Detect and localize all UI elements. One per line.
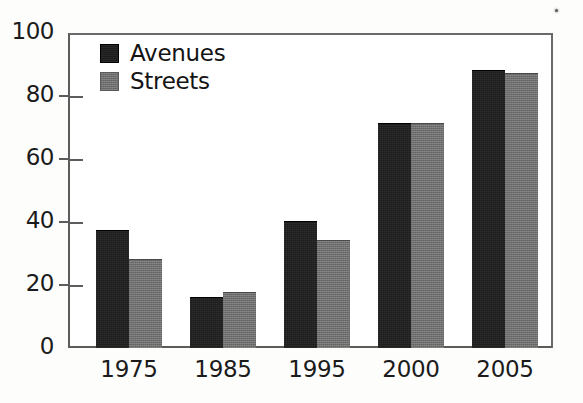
y-tick-mark-20 [59, 284, 68, 286]
x-label-1985: 1985 [188, 356, 258, 382]
bar-streets-2005[interactable] [505, 73, 538, 348]
bar-avenues-1975[interactable] [96, 230, 129, 348]
legend-swatch-streets-icon [100, 72, 119, 91]
x-label-2000: 2000 [376, 356, 446, 382]
bar-avenues-1985[interactable] [190, 297, 223, 348]
y-tick-label-20: 20 [26, 270, 54, 296]
x-label-1995: 1995 [282, 356, 352, 382]
bar-streets-1995[interactable] [317, 240, 350, 348]
x-axis: 1975 1985 1995 2000 2005 [68, 348, 553, 393]
y-tick-mark-40 [59, 221, 68, 223]
y-axis: 100 80 60 40 20 0 [0, 33, 68, 348]
legend-swatch-avenues-icon [100, 44, 119, 63]
legend-item-avenues[interactable]: Avenues [100, 40, 225, 66]
bar-avenues-2005[interactable] [472, 70, 505, 348]
bar-group-1995 [284, 33, 350, 348]
bar-chart-figure: 100 80 60 40 20 0 [0, 0, 583, 403]
bar-avenues-1995[interactable] [284, 221, 317, 348]
bar-streets-1985[interactable] [223, 292, 256, 348]
bar-group-2005 [472, 33, 538, 348]
y-tick-mark-80 [59, 95, 68, 97]
scan-speck-artifact [555, 9, 558, 12]
legend-label-avenues: Avenues [130, 40, 225, 66]
y-tick-mark-60 [59, 158, 68, 160]
y-tick-label-100: 100 [12, 18, 54, 44]
bar-avenues-2000[interactable] [378, 123, 411, 348]
bar-streets-2000[interactable] [411, 123, 444, 348]
bar-group-2000 [378, 33, 444, 348]
legend-label-streets: Streets [130, 68, 210, 94]
legend-item-streets[interactable]: Streets [100, 68, 225, 94]
x-label-1975: 1975 [94, 356, 164, 382]
chart-legend: Avenues Streets [100, 40, 225, 96]
y-tick-label-60: 60 [26, 144, 54, 170]
y-tick-label-40: 40 [26, 207, 54, 233]
bar-streets-1975[interactable] [129, 259, 162, 348]
y-tick-label-80: 80 [26, 81, 54, 107]
y-tick-label-0: 0 [40, 333, 54, 359]
x-label-2005: 2005 [470, 356, 540, 382]
